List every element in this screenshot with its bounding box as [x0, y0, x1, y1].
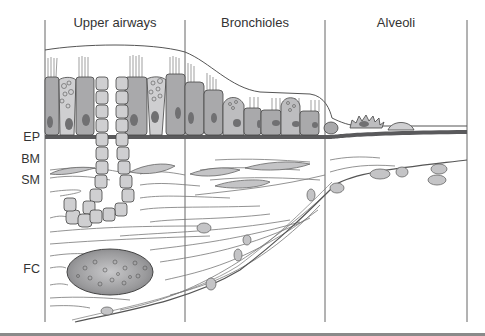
cartilage-plate — [67, 249, 153, 295]
histology-illustration — [0, 0, 485, 336]
type-1-pneumocyte — [388, 123, 414, 131]
